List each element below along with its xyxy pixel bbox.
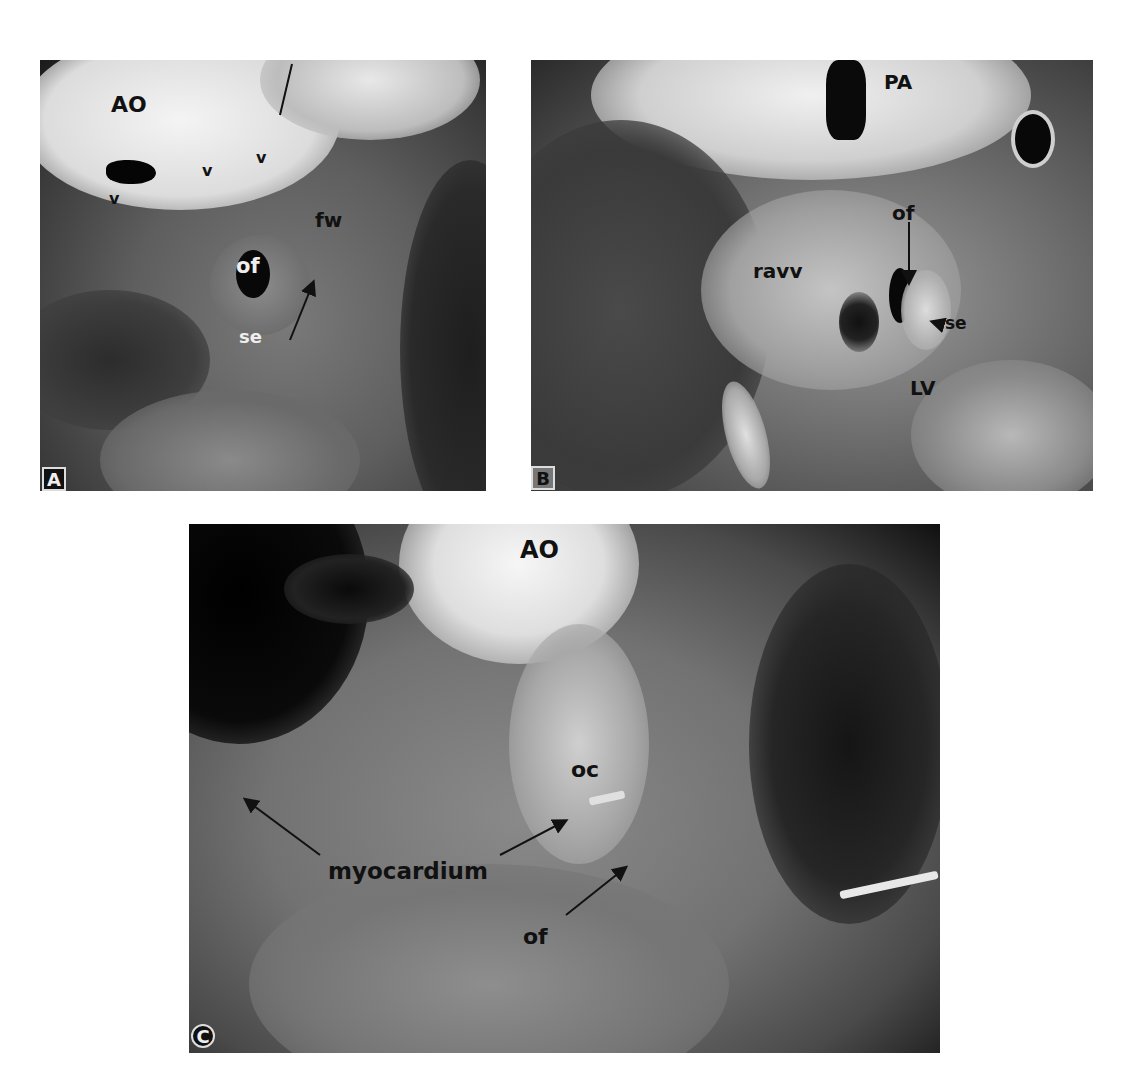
label-lv: LV <box>910 378 935 398</box>
label-v: v <box>202 163 212 179</box>
panel-letter-c: C <box>191 1024 215 1048</box>
dark-pocket-top <box>826 60 866 140</box>
label-pa: PA <box>884 72 912 92</box>
label-oc: oc <box>571 759 599 781</box>
trabecular-holes <box>839 292 879 352</box>
panel-letter-a: A <box>42 467 66 491</box>
figure-panel-b: PA of ravv se LV B <box>531 60 1093 491</box>
aortic-lumen-hole <box>106 160 156 184</box>
dark-right-edge <box>400 160 486 491</box>
figure-panel-a: AO v v v fw of se A <box>40 60 486 491</box>
outflow-channel <box>509 624 649 864</box>
label-se: se <box>239 328 262 346</box>
septal-edge <box>901 270 951 350</box>
panel-letter-b: B <box>531 466 555 490</box>
lv-trabeculae <box>911 360 1093 491</box>
label-v: v <box>256 150 266 166</box>
label-of: of <box>892 203 914 223</box>
label-ao: AO <box>520 538 559 562</box>
label-fw: fw <box>315 210 342 230</box>
label-v: v <box>109 191 119 207</box>
ventricle-lower <box>249 864 729 1053</box>
label-myocardium: myocardium <box>328 860 488 883</box>
label-of: of <box>236 256 260 277</box>
label-of: of <box>523 926 548 948</box>
dark-background-right <box>749 564 940 924</box>
figure-panel-c: AO oc myocardium of C <box>189 524 940 1053</box>
label-ravv: ravv <box>753 261 802 281</box>
dark-opening <box>284 554 414 624</box>
label-ao: AO <box>111 94 147 116</box>
label-se: se <box>945 315 967 332</box>
vessel-ring-top-right <box>1011 110 1055 168</box>
